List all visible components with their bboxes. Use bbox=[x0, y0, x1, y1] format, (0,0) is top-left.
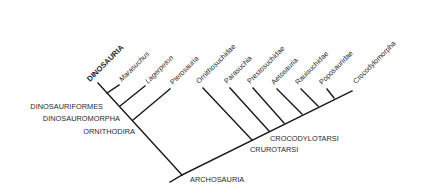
clade-label-archosauria: ARCHOSAURIA bbox=[190, 175, 244, 184]
branch-rauisuchidae bbox=[301, 89, 318, 106]
branch-marasuchus bbox=[107, 85, 119, 93]
branch-pterosauria bbox=[133, 89, 170, 120]
taxon-label: Crocodylomorpha bbox=[351, 39, 397, 85]
branch-poposauridae bbox=[327, 89, 334, 98]
clade-label-dinosauromorpha: DINOSAUROMORPHA bbox=[43, 114, 120, 123]
clade-label-crocodylotarsi: CROCODYLOTARSI bbox=[270, 134, 339, 143]
clade-label-dinosauriformes: DINOSAURIFORMES bbox=[30, 102, 103, 111]
clade-label-crurotarsi: CRUROTARSI bbox=[250, 145, 298, 154]
branch-parasuchia bbox=[230, 88, 269, 131]
branch-ornithosuchidae bbox=[203, 88, 252, 140]
branch-lagerpeton bbox=[120, 86, 145, 106]
clade-label-ornithodira: ORNITHODIRA bbox=[83, 127, 135, 136]
archosauria-root bbox=[170, 175, 182, 182]
branch-aetosauria bbox=[277, 89, 302, 114]
cladogram: DINOSAURIA Marasuchus Lagerpeton Pterosa… bbox=[0, 0, 427, 194]
